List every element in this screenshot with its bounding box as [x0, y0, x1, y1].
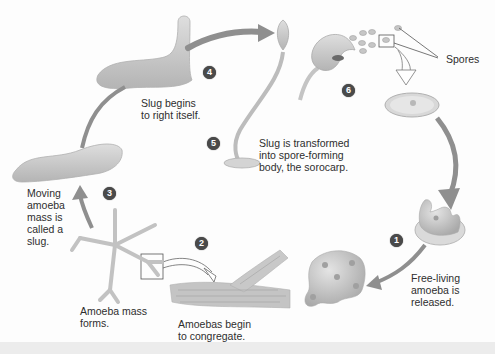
step-2-label: Amoebas begin to congregate. — [178, 318, 251, 342]
step-6-badge: 6 — [342, 84, 355, 97]
free-amoeba-illustration — [305, 251, 365, 307]
amoeba-mass-illustration — [72, 210, 162, 302]
step-5-badge: 5 — [207, 137, 220, 150]
slug-illustration — [13, 144, 123, 182]
amoeba-mass-label: Amoeba mass forms. — [80, 305, 147, 329]
step-4-badge: 4 — [203, 66, 216, 79]
germinating-spore-illustration — [385, 93, 439, 117]
step-3-label: Moving amoeba mass is called a slug. — [27, 187, 65, 247]
slime-mold-life-cycle-diagram: 1 2 3 4 5 6 Free-living amoeba is releas… — [0, 0, 495, 354]
step-1-label: Free-living amoeba is released. — [411, 272, 460, 308]
step-4-label: Slug begins to right itself. — [141, 97, 201, 121]
bottom-band — [0, 342, 495, 354]
step-1-badge: 1 — [390, 234, 403, 247]
step-5-label: Slug is transformed into spore-forming b… — [259, 137, 349, 173]
step-2-badge: 2 — [195, 237, 208, 250]
step-3-badge: 3 — [103, 187, 116, 200]
righting-slug-illustration — [97, 16, 192, 89]
spores-label: Spores — [446, 53, 479, 65]
emerging-amoeba-illustration — [415, 200, 465, 245]
